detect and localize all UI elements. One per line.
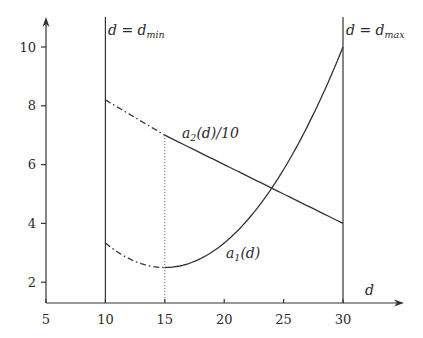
- a2-curve-extrapolated: [105, 100, 164, 135]
- dmin-label: d = dmin: [108, 22, 165, 40]
- x-tick-label: 5: [42, 312, 50, 327]
- y-ticks: 246810: [19, 40, 46, 290]
- y-tick-label: 8: [28, 98, 36, 113]
- x-tick-label: 20: [216, 312, 233, 327]
- y-tick-label: 2: [28, 275, 36, 290]
- x-tick-label: 10: [97, 312, 114, 327]
- axes: [43, 17, 405, 307]
- y-tick-label: 10: [19, 40, 36, 55]
- a2-curve: [165, 135, 343, 223]
- x-tick-label: 25: [275, 312, 292, 327]
- x-tick-label: 30: [335, 312, 352, 327]
- dmax-label: d = dmax: [346, 22, 405, 40]
- y-tick-label: 6: [28, 157, 36, 172]
- vertical-lines: [105, 17, 343, 303]
- a2-curve-label: a2(d)/10: [182, 125, 239, 143]
- a1-curve: [165, 47, 343, 268]
- a1-curve-extrapolated: [105, 243, 164, 268]
- chart: 51015202530 246810 d = dmin d = dmax a2(…: [0, 0, 423, 338]
- x-axis-label: d: [365, 282, 374, 298]
- x-tick-label: 15: [157, 312, 174, 327]
- y-tick-label: 4: [28, 216, 36, 231]
- curves: [105, 47, 343, 268]
- a1-curve-label: a1(d): [226, 245, 260, 263]
